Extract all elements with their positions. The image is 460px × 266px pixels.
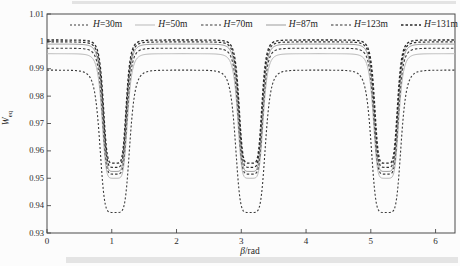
legend-line-sample (331, 21, 351, 29)
x-tick-label: 4 (296, 237, 316, 246)
legend-label: H=123m (354, 20, 388, 30)
y-tick-label: 0.93 (16, 229, 44, 238)
legend-item-H-131m: H=131m (401, 20, 458, 30)
chart-canvas (0, 0, 460, 266)
y-tick-label: 0.98 (16, 92, 44, 101)
x-axis-title-unit: /rad (245, 246, 260, 256)
y-axis-title-symbol: W (1, 117, 11, 125)
y-axis-title: Weq (2, 88, 14, 148)
legend-line-sample (201, 21, 221, 29)
y-tick-label: 1.01 (16, 10, 44, 19)
plot-frame (47, 14, 455, 233)
legend-item-H-123m: H=123m (331, 20, 388, 30)
x-axis-title: β/rad (210, 247, 290, 257)
y-axis-title-subscript: eq (6, 111, 14, 118)
legend-label: H=70m (224, 20, 253, 30)
legend-line-sample (135, 21, 155, 29)
legend-item-H-30m: H=30m (70, 20, 122, 30)
y-tick-label: 0.95 (16, 174, 44, 183)
legend-label: H=30m (93, 20, 122, 30)
x-tick-label: 6 (426, 237, 446, 246)
x-tick-label: 1 (102, 237, 122, 246)
legend-label: H=131m (424, 20, 458, 30)
y-tick-label: 0.94 (16, 201, 44, 210)
legend-item-H-70m: H=70m (201, 20, 253, 30)
figure-page: { "figure": { "axes": { "x": { "title_va… (0, 0, 460, 266)
curve-H-70m (47, 48, 455, 174)
y-tick-label: 0.96 (16, 146, 44, 155)
legend-item-H-87m: H=87m (266, 20, 318, 30)
y-tick-label: 0.99 (16, 64, 44, 73)
x-tick-label: 3 (231, 237, 251, 246)
legend-item-H-50m: H=50m (135, 20, 187, 30)
legend-label: H=87m (289, 20, 318, 30)
curve-H-131m (47, 40, 455, 163)
legend-line-sample (70, 21, 90, 29)
x-tick-label: 0 (37, 237, 57, 246)
y-tick-label: 0.97 (16, 119, 44, 128)
x-tick-label: 5 (361, 237, 381, 246)
chart-legend: H=30mH=50mH=70mH=87mH=123mH=131m (70, 18, 458, 31)
legend-label: H=50m (158, 20, 187, 30)
legend-line-sample (266, 21, 286, 29)
x-tick-label: 2 (167, 237, 187, 246)
y-tick-label: 1 (16, 37, 44, 46)
curve-H-30m (47, 70, 455, 212)
legend-line-sample (401, 21, 421, 29)
curve-H-50m (47, 54, 455, 179)
